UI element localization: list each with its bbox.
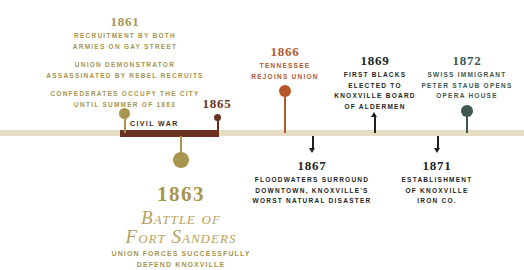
feature-year: 1863 bbox=[81, 183, 281, 205]
event-1872-line-2: PETER STAUB OPENS bbox=[407, 81, 524, 92]
marker-1863-dot bbox=[173, 152, 189, 168]
civil-war-label: CIVIL WAR bbox=[130, 120, 179, 127]
event-1871: 1871 ESTABLISHMENT OF KNOXVILLE IRON CO. bbox=[382, 158, 492, 207]
timeline-infographic: CIVIL WAR 1861 bbox=[0, 0, 524, 270]
marker-1866-dot bbox=[279, 85, 291, 97]
marker-1872-dot bbox=[461, 105, 473, 117]
marker-1871-arrow-icon bbox=[434, 148, 440, 153]
feature-subtitle-line-2: DEFEND KNOXVILLE bbox=[81, 260, 281, 270]
marker-1866-stem bbox=[284, 92, 286, 133]
event-1871-line-1: ESTABLISHMENT bbox=[382, 175, 492, 186]
event-1872-description: SWISS IMMIGRANT PETER STAUB OPENS OPERA … bbox=[407, 70, 524, 102]
event-1872: 1872 SWISS IMMIGRANT PETER STAUB OPENS O… bbox=[407, 53, 524, 102]
event-1872-line-3: OPERA HOUSE bbox=[407, 91, 524, 102]
marker-1867-arrow-icon bbox=[309, 148, 315, 153]
feature-subtitle: UNION FORCES SUCCESSFULLY DEFEND KNOXVIL… bbox=[81, 249, 281, 270]
feature-title-line-2: Fort Sanders bbox=[81, 227, 281, 246]
event-1867-year: 1867 bbox=[242, 158, 382, 173]
feature-title-line-1: Battle of bbox=[81, 208, 281, 227]
civil-war-period-bar bbox=[120, 130, 219, 137]
event-1872-year: 1872 bbox=[407, 53, 524, 68]
timeline-baseline bbox=[0, 130, 524, 136]
marker-1865-dot bbox=[214, 114, 221, 121]
event-1871-line-3: IRON CO. bbox=[382, 196, 492, 207]
event-1861-line-2: ARMIES ON GAY STREET bbox=[25, 42, 225, 53]
event-1865: 1865 bbox=[187, 96, 247, 111]
event-1861-year: 1861 bbox=[25, 14, 225, 29]
feature-1863-battle-of-fort-sanders: 1863 Battle of Fort Sanders UNION FORCES… bbox=[81, 183, 281, 270]
event-1869-line-4: OF ALDERMEN bbox=[315, 102, 435, 113]
event-1861-line-1: RECRUITMENT BY BOTH bbox=[25, 31, 225, 42]
event-1861-line-4: ASSASSINATED BY REBEL RECRUITS bbox=[25, 71, 225, 82]
event-1871-line-2: OF KNOXVILLE bbox=[382, 186, 492, 197]
event-1865-year: 1865 bbox=[187, 96, 247, 111]
event-1871-description: ESTABLISHMENT OF KNOXVILLE IRON CO. bbox=[382, 175, 492, 207]
feature-subtitle-line-1: UNION FORCES SUCCESSFULLY bbox=[81, 249, 281, 260]
marker-1869-stem bbox=[374, 117, 376, 133]
event-1871-year: 1871 bbox=[382, 158, 492, 173]
marker-1869-arrow-icon bbox=[371, 112, 377, 117]
event-1872-line-1: SWISS IMMIGRANT bbox=[407, 70, 524, 81]
event-1861-line-3: UNION DEMONSTRATOR bbox=[25, 60, 225, 71]
